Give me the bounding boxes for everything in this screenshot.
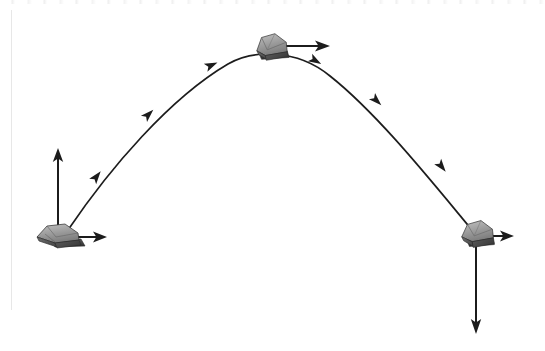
trajectory-group [68,54,472,230]
rock-launch [37,224,85,248]
rock-apex [257,34,289,61]
projectile-motion-figure: Projectile motion trajectory diagram Par… [0,0,545,351]
trajectory-direction-arrowhead [89,169,104,185]
trajectory-direction-arrowhead [369,93,384,108]
trajectory-direction-arrowhead [141,107,156,122]
parabolic-trajectory-path [68,54,472,230]
trajectory-direction-arrowhead [434,159,449,175]
diagram-canvas: Projectile motion trajectory diagram Par… [0,0,545,351]
